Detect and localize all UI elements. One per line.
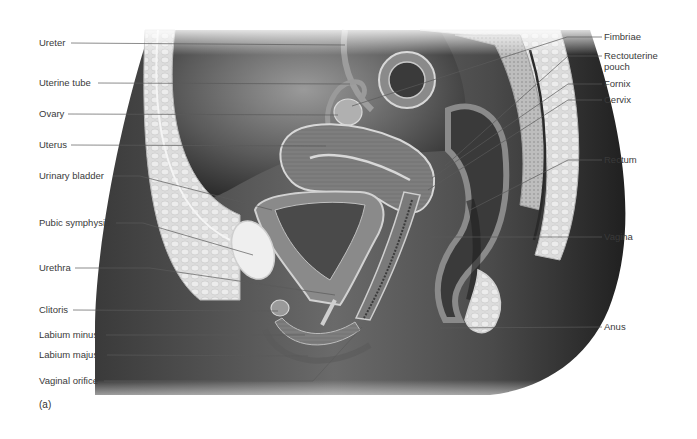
label-fimbriae: Fimbriae	[604, 31, 641, 42]
label-labium-majus: Labium majus	[39, 349, 98, 360]
label-urinary-bladder: Urinary bladder	[39, 170, 104, 181]
label-vaginal-orifice: Vaginal orifice	[39, 375, 98, 386]
label-anus: Anus	[604, 321, 626, 332]
label-fornix: Fornix	[604, 78, 630, 89]
label-vagina: Vagina	[604, 231, 633, 242]
label-labium-minus: Labium minus	[39, 329, 98, 340]
label-ovary: Ovary	[39, 108, 64, 119]
panel-letter: (a)	[39, 399, 51, 410]
clitoris	[271, 300, 289, 316]
label-rectouterine-pouch: Rectouterine pouch	[604, 50, 658, 72]
label-uterus: Uterus	[39, 139, 67, 150]
label-clitoris: Clitoris	[39, 304, 68, 315]
label-urethra: Urethra	[39, 262, 71, 273]
ovary	[334, 99, 362, 125]
label-pubic-symphysis: Pubic symphysis	[39, 217, 110, 228]
label-ureter: Ureter	[39, 37, 65, 48]
label-cervix: Cervix	[604, 94, 631, 105]
label-uterine-tube: Uterine tube	[39, 77, 91, 88]
label-rectum: Rectum	[604, 154, 637, 165]
